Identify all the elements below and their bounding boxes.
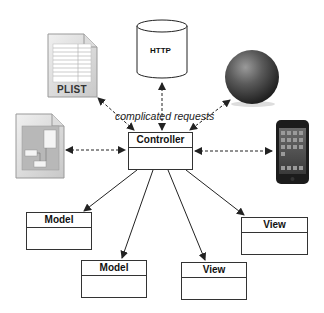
globe-sphere-icon bbox=[225, 50, 279, 107]
model-box-2[interactable]: Model bbox=[81, 260, 147, 298]
model-label: Model bbox=[27, 213, 91, 228]
solid-connectors bbox=[84, 170, 244, 260]
http-label: HTTP bbox=[150, 46, 171, 55]
model-label: Model bbox=[82, 261, 146, 276]
iphone-icon bbox=[276, 120, 309, 184]
document-file-icon bbox=[16, 114, 64, 178]
view-box-2[interactable]: View bbox=[181, 262, 247, 300]
plist-label: PLIST bbox=[57, 84, 87, 95]
model-box-1[interactable]: Model bbox=[26, 212, 92, 250]
controller-label: Controller bbox=[129, 133, 192, 148]
controller-box[interactable]: Controller bbox=[128, 132, 193, 170]
view-box-1[interactable]: View bbox=[241, 217, 308, 255]
complicated-requests-label: complicated requests bbox=[115, 110, 214, 122]
view-label: View bbox=[242, 218, 307, 233]
view-label: View bbox=[182, 263, 246, 278]
